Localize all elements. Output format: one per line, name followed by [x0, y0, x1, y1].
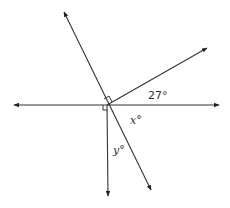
geometry-diagram: 27° x° y° [0, 0, 230, 208]
ray-down [107, 105, 108, 196]
angle-label-27: 27° [148, 89, 168, 102]
angle-label-x: x° [130, 114, 142, 127]
angle-label-y: y° [112, 144, 125, 157]
right-angle-mark-horizontal-vertical [103, 105, 107, 110]
